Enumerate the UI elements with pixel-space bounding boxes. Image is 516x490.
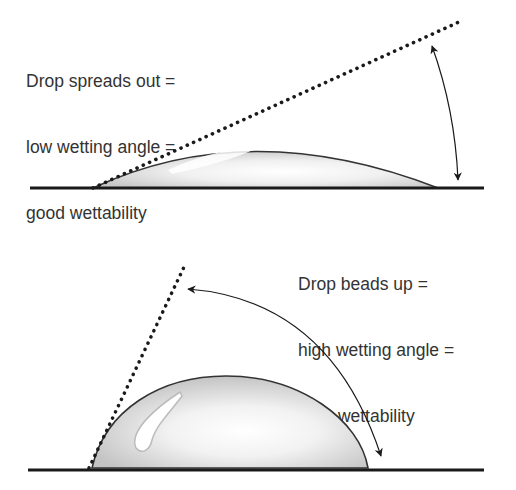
drop-bead	[92, 376, 368, 468]
panel-high-angle	[28, 267, 484, 470]
panel-low-angle	[30, 22, 484, 188]
angle-arrow	[432, 46, 458, 180]
drop-spread	[93, 152, 438, 189]
wetting-diagram	[0, 0, 516, 490]
